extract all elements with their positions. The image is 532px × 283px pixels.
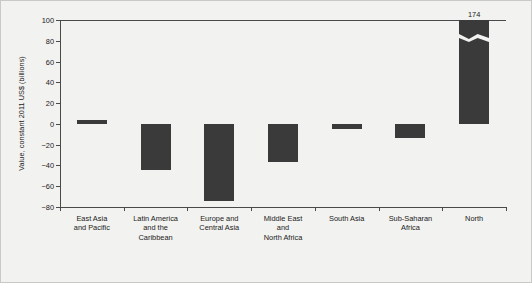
y-axis-tick-label: −80 — [24, 203, 54, 212]
bar-series — [60, 20, 506, 207]
x-axis-tick — [315, 207, 316, 211]
x-axis-category-label: Europe and Central Asia — [199, 214, 239, 233]
bar — [268, 124, 298, 162]
y-axis-tick-label: −40 — [24, 161, 54, 170]
plot-area — [60, 20, 506, 207]
bar — [459, 20, 489, 124]
x-axis-category-label: Middle East and North Africa — [264, 214, 303, 242]
y-axis-tick-label: −60 — [24, 182, 54, 191]
y-axis-title: Value, constant 2011 US$ (billions) — [14, 18, 28, 208]
x-axis-category-label: East Asia and Pacific — [74, 214, 110, 233]
x-axis-tick — [251, 207, 252, 211]
bar — [141, 124, 171, 170]
y-axis-tick-label: −20 — [24, 140, 54, 149]
y-axis-tick-label: 40 — [24, 78, 54, 87]
x-axis-tick — [187, 207, 188, 211]
bar — [332, 124, 362, 129]
x-axis-category-label: Sub-Saharan Africa — [389, 214, 433, 233]
x-axis-tick — [60, 207, 61, 211]
chart-figure: Value, constant 2011 US$ (billions) East… — [0, 0, 532, 283]
x-axis-tick — [124, 207, 125, 211]
x-axis-tick — [506, 207, 507, 211]
y-axis-tick-label: 80 — [24, 36, 54, 45]
x-axis-tick — [442, 207, 443, 211]
bar-value-label: 174 — [468, 10, 480, 19]
y-axis-tick-label: 20 — [24, 99, 54, 108]
y-axis-tick-label: 60 — [24, 57, 54, 66]
bar — [77, 120, 107, 124]
y-axis-title-text: Value, constant 2011 US$ (billions) — [17, 56, 26, 171]
x-axis-category-label: Latin America and the Caribbean — [133, 214, 178, 242]
bar — [204, 124, 234, 201]
x-axis-category-label: North — [465, 214, 483, 223]
x-axis-line — [60, 207, 507, 208]
y-axis-tick-label: 0 — [24, 119, 54, 128]
x-axis-tick — [379, 207, 380, 211]
y-axis-tick-label: 100 — [24, 16, 54, 25]
x-axis-category-label: South Asia — [329, 214, 364, 223]
bar — [395, 124, 425, 139]
